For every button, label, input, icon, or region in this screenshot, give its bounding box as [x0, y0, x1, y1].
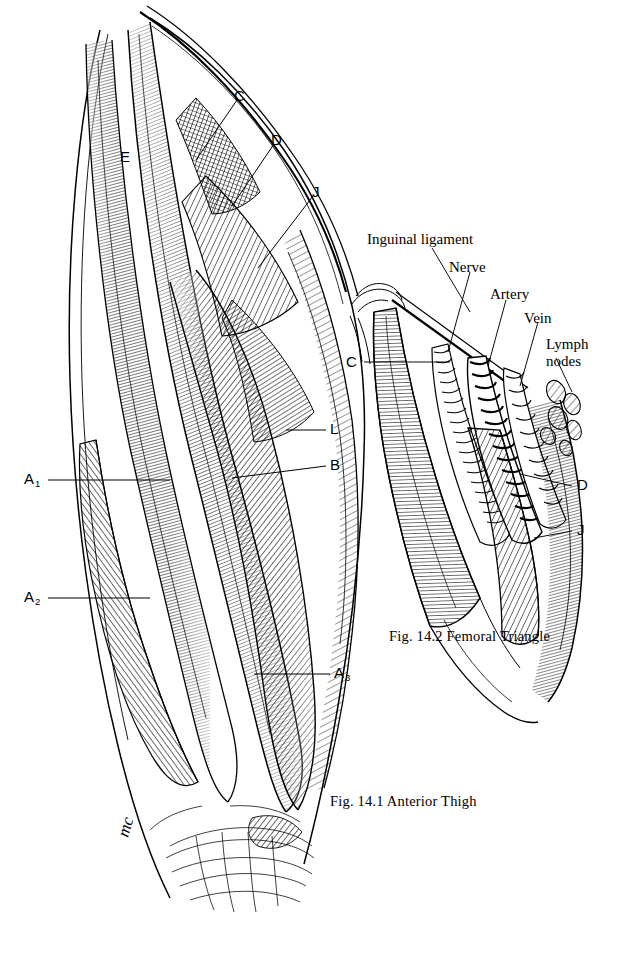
fig1-caption: Fig. 14.1 Anterior Thigh [330, 793, 477, 810]
illustration-svg: mc [0, 0, 635, 955]
fig1-label-A1-subscript: 1 [35, 478, 41, 489]
anatomical-plate: mc C D E J L B A1 A2 A3 Fig. 14.1 Anteri… [0, 0, 635, 955]
fig2-label-C: C [346, 353, 357, 370]
fig-14-1-drawing [48, 6, 365, 912]
fig2-label-nerve: Nerve [449, 259, 486, 276]
fig2-label-D: D [577, 476, 588, 493]
artist-signature: mc [114, 814, 138, 839]
fig2-label-inguinal-ligament: Inguinal ligament [367, 231, 473, 248]
fig1-label-A1-letter: A [24, 470, 34, 487]
fig1-label-C: C [234, 87, 245, 104]
fig2-label-artery: Artery [490, 286, 529, 303]
fig1-label-E: E [120, 148, 130, 165]
fig2-label-lymph-line2: nodes [546, 353, 589, 370]
fig1-label-A3-letter: A [334, 664, 344, 681]
fig1-label-A3-subscript: 3 [345, 672, 351, 683]
fig2-label-J: J [577, 521, 585, 538]
fig1-label-A2-subscript: 2 [35, 596, 41, 607]
fig1-label-A2-letter: A [24, 588, 34, 605]
fig1-label-A3: A3 [334, 664, 350, 681]
svg-text:mc: mc [114, 814, 138, 839]
fig1-label-A1: A1 [24, 470, 40, 487]
fig1-label-L: L [330, 420, 339, 437]
fig1-label-J: J [312, 183, 320, 200]
fig1-label-B: B [330, 456, 340, 473]
fig1-label-A2: A2 [24, 588, 40, 605]
fig2-caption: Fig. 14.2 Femoral Triangle [389, 628, 550, 645]
fig1-label-D: D [271, 131, 282, 148]
fig2-label-vein: Vein [524, 310, 552, 327]
fig2-label-lymph-nodes: Lymph nodes [546, 336, 589, 370]
fig2-label-lymph-line1: Lymph [546, 336, 589, 353]
